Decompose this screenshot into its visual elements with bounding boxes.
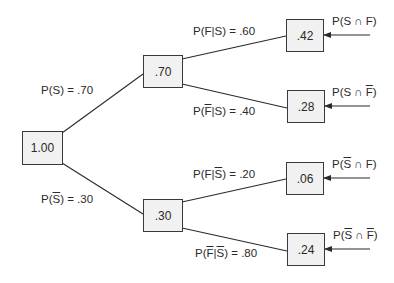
node-value: .06 xyxy=(297,172,314,186)
edge-s-to-f xyxy=(182,36,286,59)
joint-label-not-s-and-not-f: P(S ∩ F) xyxy=(333,228,378,242)
edge-not-s-to-f xyxy=(182,179,286,202)
node-value: .24 xyxy=(298,243,315,257)
node-value: .70 xyxy=(155,65,172,79)
probability-tree-diagram: 1.00 .70 .30 .42 .28 .06 .24 P(S) = .70 … xyxy=(0,0,394,283)
branch-label-p-f-given-not-s: P(F|S) = .20 xyxy=(193,167,255,181)
branch-label-p-not-s: P(S) = .30 xyxy=(41,192,93,206)
node-s-and-not-f: .28 xyxy=(287,90,325,123)
joint-label-not-s-and-f: P(S ∩ F) xyxy=(332,157,377,171)
branch-label-p-s: P(S) = .70 xyxy=(41,83,93,97)
node-not-s-and-f: .06 xyxy=(286,162,324,195)
joint-label-s-and-f: P(S ∩ F) xyxy=(332,14,377,28)
joint-label-s-and-not-f: P(S ∩ F) xyxy=(332,85,377,99)
node-value: .42 xyxy=(297,29,314,43)
node-value: 1.00 xyxy=(31,141,54,155)
node-s-and-f: .42 xyxy=(286,19,324,52)
branch-label-p-not-f-given-s: P(F|S) = .40 xyxy=(193,104,255,118)
node-root: 1.00 xyxy=(22,131,63,165)
branch-label-p-not-f-given-not-s: P(F|S) = .80 xyxy=(195,246,257,260)
node-not-s-and-not-f: .24 xyxy=(287,233,325,266)
edge-root-to-not-s xyxy=(62,163,143,214)
branch-label-p-f-given-s: P(F|S) = .60 xyxy=(193,24,255,38)
node-value: .30 xyxy=(155,209,172,223)
node-not-s: .30 xyxy=(143,199,183,232)
node-value: .28 xyxy=(298,100,315,114)
node-s: .70 xyxy=(143,55,183,88)
